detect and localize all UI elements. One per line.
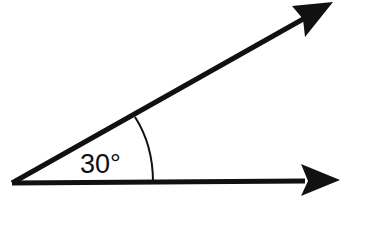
angle-arc bbox=[135, 117, 153, 182]
top-ray bbox=[12, 18, 305, 183]
bottom-ray bbox=[12, 181, 305, 183]
angle-label: 30° bbox=[80, 149, 121, 179]
angle-diagram: 30° bbox=[0, 0, 366, 227]
bottom-arrowhead-icon bbox=[301, 164, 340, 196]
